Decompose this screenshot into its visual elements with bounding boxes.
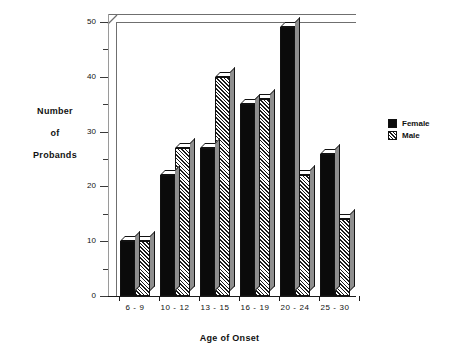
y-tick-major (100, 241, 108, 242)
bar-front-face (160, 175, 175, 296)
y-tick-minor (103, 269, 108, 270)
y-tick-label: 40 (70, 73, 96, 81)
bar-side-face (350, 209, 355, 291)
x-tick-label: 25 - 30 (311, 303, 359, 312)
legend-label-male: Male (402, 131, 420, 140)
x-tick (119, 296, 120, 301)
y-tick-major (100, 132, 108, 133)
x-tick (319, 296, 320, 301)
bar-side-face (150, 231, 155, 291)
bar-female-3 (240, 104, 255, 296)
bar-group-container (116, 22, 356, 296)
bar-side-face (175, 165, 180, 291)
y-tick-major (100, 296, 108, 297)
bar-front-face (240, 104, 255, 296)
x-tick (159, 296, 160, 301)
y-tick-label: 10 (70, 237, 96, 245)
bar-side-face (230, 67, 235, 291)
bar-front-face (280, 27, 295, 296)
bar-front-face (320, 154, 335, 296)
x-tick (359, 296, 360, 301)
legend-item-male: Male (388, 131, 430, 140)
y-axis-title-line-1: Number (12, 100, 98, 122)
bar-female-2 (200, 148, 215, 296)
y-tick-minor (103, 214, 108, 215)
bar-side-face (335, 144, 340, 291)
bar-side-face (255, 94, 260, 291)
y-tick-label: 50 (70, 18, 96, 26)
y-tick-minor (103, 49, 108, 50)
x-tick (199, 296, 200, 301)
bar-side-face (270, 89, 275, 291)
y-tick-minor (103, 159, 108, 160)
bar-side-face (215, 138, 220, 291)
legend-label-female: Female (402, 119, 430, 128)
y-tick-minor (103, 104, 108, 105)
legend-swatch-male-icon (388, 131, 397, 140)
x-axis-title: Age of Onset (0, 333, 459, 343)
legend-item-female: Female (388, 119, 430, 128)
x-tick (239, 296, 240, 301)
bar-side-face (310, 165, 315, 291)
y-axis-title-line-3: Probands (12, 144, 98, 166)
bar-female-1 (160, 175, 175, 296)
x-tick (279, 296, 280, 301)
bar-female-0 (120, 241, 135, 296)
y-tick-label: 30 (70, 128, 96, 136)
bar-front-face (200, 148, 215, 296)
bar-female-4 (280, 27, 295, 296)
bar-side-face (135, 231, 140, 291)
y-tick-label: 20 (70, 182, 96, 190)
y-tick-label: 0 (70, 292, 96, 300)
bar-side-face (295, 17, 300, 291)
plot-back-left-edge (108, 14, 109, 296)
plot-top-edge (108, 14, 356, 15)
y-tick-major (100, 77, 108, 78)
bar-front-face (120, 241, 135, 296)
legend: Female Male (388, 119, 430, 143)
legend-swatch-female-icon (388, 119, 397, 128)
bar-female-5 (320, 154, 335, 296)
y-tick-major (100, 186, 108, 187)
bar-side-face (190, 138, 195, 291)
y-tick-major (100, 22, 108, 23)
bar-chart: Number of Probands 01020304050 6 - 910 -… (0, 0, 459, 358)
